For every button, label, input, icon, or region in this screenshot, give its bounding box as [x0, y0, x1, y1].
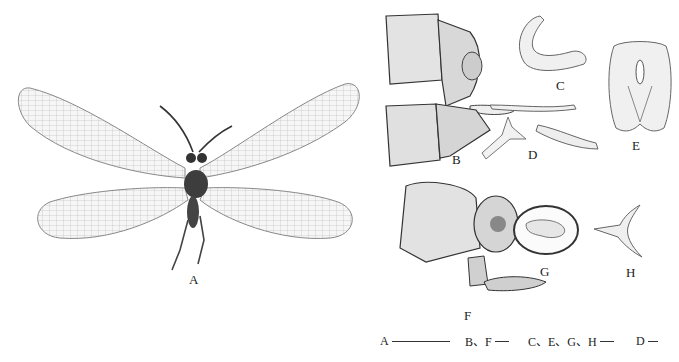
structure-h-illustration	[590, 205, 660, 265]
structure-c-illustration	[510, 12, 590, 92]
panel-h: H	[590, 205, 660, 285]
panel-label-a: A	[189, 272, 198, 288]
panel-d: D	[478, 95, 618, 165]
scale-bar-bf-label: B、F	[465, 332, 492, 350]
panel-label-f: F	[464, 308, 471, 324]
panel-g-spermatheca: G	[512, 204, 582, 284]
scale-bar-cegh-label: C、E、G、H	[528, 332, 597, 350]
scale-bar-a-line	[392, 341, 450, 342]
panel-e: E	[604, 38, 676, 148]
scale-bar-d-line	[648, 341, 658, 342]
panel-label-h: H	[626, 265, 635, 281]
lacewing-illustration	[0, 60, 370, 300]
scale-bar-bf: B、F	[465, 334, 509, 348]
panel-a-habitus: A	[0, 60, 370, 300]
panel-c: C	[510, 12, 590, 92]
panel-label-c: C	[556, 78, 565, 94]
spermatheca-illustration	[512, 204, 582, 264]
scale-bar-cegh-line	[600, 341, 614, 342]
panel-label-b: B	[452, 152, 461, 168]
structure-d-illustration	[478, 95, 618, 165]
scale-bar-a-label: A	[380, 334, 389, 349]
scale-bar-d-label: D	[636, 334, 645, 349]
scale-bar-a: A	[380, 334, 450, 348]
panel-label-d: D	[528, 147, 537, 163]
scale-bar-bf-line	[495, 341, 509, 342]
scale-bar-d: D	[636, 334, 658, 348]
scale-bar-cegh: C、E、G、H	[528, 334, 614, 348]
structure-e-illustration	[604, 38, 676, 148]
panel-label-g: G	[540, 264, 549, 280]
panel-label-e: E	[632, 138, 640, 154]
